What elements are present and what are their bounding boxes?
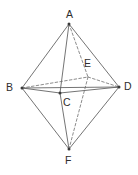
vertex-label-a: A xyxy=(66,9,73,20)
edge-e-d xyxy=(88,77,119,87)
edge-b-c xyxy=(22,88,60,93)
vertex-point-f xyxy=(68,148,71,151)
vertex-label-b: B xyxy=(6,82,13,93)
edge-b-d xyxy=(22,87,119,88)
edge-b-e xyxy=(22,77,88,88)
figure-canvas xyxy=(0,0,138,175)
edge-d-f xyxy=(69,87,119,149)
edges-layer xyxy=(22,24,119,149)
vertex-point-d xyxy=(118,86,121,89)
vertex-label-c: C xyxy=(63,97,71,108)
edge-b-f xyxy=(22,88,69,149)
vertices-layer xyxy=(21,23,121,151)
vertex-label-d: D xyxy=(124,81,132,92)
vertex-point-a xyxy=(68,23,71,26)
vertex-label-e: E xyxy=(84,58,91,69)
geometry-figure: ABCDEF xyxy=(0,0,138,175)
edge-a-d xyxy=(69,24,119,87)
edge-a-e xyxy=(69,24,88,77)
vertex-point-c xyxy=(59,92,62,95)
vertex-point-b xyxy=(21,87,24,90)
vertex-label-f: F xyxy=(65,155,72,166)
